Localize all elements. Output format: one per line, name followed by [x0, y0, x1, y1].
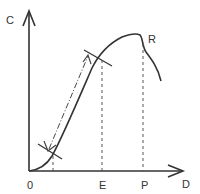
upper-arrowhead-icon — [83, 55, 91, 64]
stress-strain-diagram: C D 0 E P R — [0, 0, 200, 194]
point-E-label: E — [99, 179, 106, 191]
x-axis-label: D — [182, 178, 190, 190]
point-P-label: P — [141, 179, 148, 191]
upper-tangent-tick — [84, 50, 112, 66]
point-R-label: R — [148, 33, 156, 45]
origin-label: 0 — [27, 179, 33, 191]
y-axis-label: C — [6, 14, 14, 26]
dash-dot-measure-line — [49, 56, 88, 149]
